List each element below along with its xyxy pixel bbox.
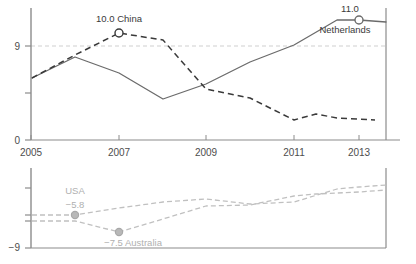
- chart-container: 9 0 2005 2007 2009 2011 2013 10.0 China: [0, 0, 416, 264]
- marker-australia: [115, 228, 122, 235]
- xtick-label-2013: 2013: [348, 147, 371, 158]
- annotation-china: 10.0 China: [96, 13, 143, 24]
- ytick-label-9: 9: [14, 41, 20, 52]
- annotation-netherlands-value: 11.0: [341, 3, 359, 14]
- annotation-netherlands-name: Netherlands: [319, 24, 370, 35]
- series-line-usa: [32, 185, 386, 215]
- xtick-label-2011: 2011: [283, 147, 305, 158]
- marker-usa: [71, 211, 78, 218]
- series-line-australia: [32, 190, 386, 232]
- marker-china: [115, 29, 123, 37]
- ytick-label-0: 0: [14, 135, 20, 146]
- xtick-label-2007: 2007: [108, 147, 131, 158]
- annotation-usa-value: −5.8: [66, 199, 85, 210]
- xtick-label-2009: 2009: [195, 147, 218, 158]
- bottom-panel: −9 USA −5.8 −7.5 Australia: [9, 168, 386, 253]
- top-panel: 9 0 2005 2007 2009 2011 2013 10.0 China: [14, 3, 400, 158]
- marker-netherlands: [355, 16, 363, 24]
- annotation-australia: −7.5 Australia: [104, 237, 163, 248]
- xtick-label-2005: 2005: [20, 147, 43, 158]
- chart-svg: 9 0 2005 2007 2009 2011 2013 10.0 China: [0, 0, 416, 264]
- ytick-label-minus9: −9: [9, 242, 21, 253]
- annotation-usa-name: USA: [65, 185, 85, 196]
